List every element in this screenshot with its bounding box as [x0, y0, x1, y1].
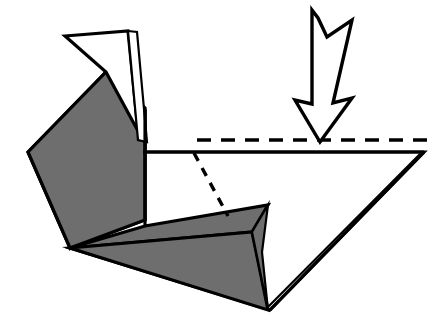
origami-diagram-canvas: A folded paper model shown from the side…	[0, 0, 440, 335]
origami-figure: A folded paper model shown from the side…	[0, 0, 440, 335]
